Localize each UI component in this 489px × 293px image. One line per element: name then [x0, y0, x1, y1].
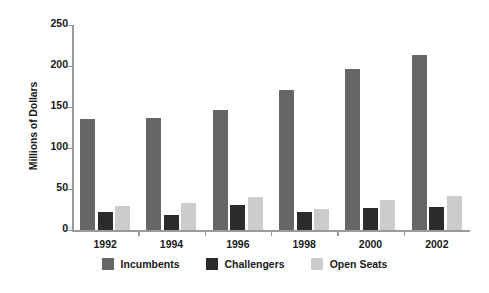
- bar-incumbents-2002: [412, 55, 427, 230]
- bar-open-seats-1992: [115, 206, 130, 230]
- y-tick-label: 250: [50, 17, 68, 29]
- x-tick-label-1994: 1994: [138, 238, 204, 250]
- y-tick-label: 200: [50, 58, 68, 70]
- bar-chart-figure: Millions of Dollars 05010015020025019921…: [0, 0, 489, 293]
- bar-challengers-2000: [363, 208, 378, 230]
- legend-swatch-icon: [311, 258, 323, 270]
- legend-swatch-icon: [206, 258, 218, 270]
- bar-challengers-2002: [429, 207, 444, 230]
- bar-challengers-1996: [230, 205, 245, 230]
- y-tick-label: 50: [56, 181, 68, 193]
- bar-open-seats-1998: [314, 209, 329, 230]
- bar-incumbents-1992: [80, 119, 95, 230]
- legend-item-open-seats[interactable]: Open Seats: [311, 258, 388, 270]
- bar-incumbents-1994: [146, 118, 161, 230]
- chart-legend: IncumbentsChallengersOpen Seats: [0, 258, 489, 270]
- bar-group-1992: [72, 25, 138, 230]
- bar-open-seats-1994: [181, 203, 196, 230]
- y-axis-title: Millions of Dollars: [27, 46, 39, 206]
- bar-challengers-1998: [297, 212, 312, 230]
- legend-label: Incumbents: [121, 258, 180, 270]
- bar-open-seats-1996: [248, 197, 263, 230]
- plot-area: 050100150200250199219941996199820002002: [72, 25, 470, 230]
- legend-label: Open Seats: [330, 258, 388, 270]
- bar-incumbents-1996: [213, 110, 228, 230]
- x-tick-mark: [138, 230, 139, 236]
- y-tick-label: 100: [50, 140, 68, 152]
- x-tick-label-2000: 2000: [337, 238, 403, 250]
- bar-group-2002: [404, 25, 470, 230]
- y-tick-label: 150: [50, 99, 68, 111]
- legend-item-challengers[interactable]: Challengers: [206, 258, 285, 270]
- x-tick-label-2002: 2002: [404, 238, 470, 250]
- bar-incumbents-2000: [345, 69, 360, 230]
- bar-challengers-1994: [164, 215, 179, 230]
- legend-item-incumbents[interactable]: Incumbents: [102, 258, 180, 270]
- y-tick-label: 0: [62, 222, 68, 234]
- bar-group-1996: [205, 25, 271, 230]
- x-tick-label-1998: 1998: [271, 238, 337, 250]
- bar-group-2000: [337, 25, 403, 230]
- x-tick-mark: [404, 230, 405, 236]
- bar-group-1994: [138, 25, 204, 230]
- x-tick-mark: [271, 230, 272, 236]
- bar-group-1998: [271, 25, 337, 230]
- x-tick-mark: [205, 230, 206, 236]
- x-tick-label-1992: 1992: [72, 238, 138, 250]
- bar-open-seats-2000: [380, 200, 395, 230]
- legend-swatch-icon: [102, 258, 114, 270]
- x-tick-label-1996: 1996: [205, 238, 271, 250]
- legend-label: Challengers: [225, 258, 285, 270]
- bar-open-seats-2002: [447, 196, 462, 230]
- bar-challengers-1992: [98, 212, 113, 230]
- x-tick-mark: [337, 230, 338, 236]
- bar-incumbents-1998: [279, 90, 294, 230]
